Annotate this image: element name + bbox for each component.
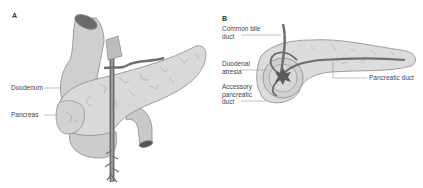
panel-b: B Common bile duct Duodenal atresia Acce…: [211, 0, 423, 188]
common-bile-duct-label: Common bile duct: [222, 25, 260, 40]
panel-a-letter: A: [12, 12, 17, 19]
panel-a: A Duodenum Pancreas: [0, 0, 211, 188]
pancreas-duodenum-illustration: [0, 0, 211, 188]
panel-b-letter: B: [222, 15, 227, 22]
accessory-pancreatic-duct-label: Accessory pancreatic duct: [222, 83, 252, 106]
duodenum-label: Duodenum: [11, 84, 43, 92]
duodenal-atresia-label: Duodenal atresia: [222, 60, 250, 75]
pancreas-label: Pancreas: [11, 111, 38, 119]
pancreatic-duct-label: Pancreatic duct: [369, 74, 414, 82]
